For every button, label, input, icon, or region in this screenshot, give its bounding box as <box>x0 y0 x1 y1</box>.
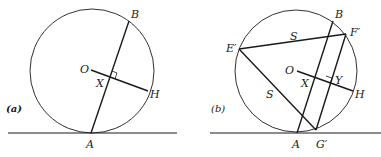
circle-b <box>235 10 357 132</box>
geometry-diagram: B O X H A (a) B F′ E′ S S O X Y H A G′ (… <box>0 0 381 157</box>
figure-a <box>8 9 177 133</box>
label-a-b: A <box>291 138 300 151</box>
label-x-b: X <box>300 77 310 90</box>
label-s-left: S <box>266 88 274 101</box>
label-a-a: A <box>85 138 94 151</box>
label-b-a: B <box>130 8 139 21</box>
figure-a-labels: B O X H A (a) <box>6 8 160 151</box>
label-e-prime: E′ <box>225 42 237 55</box>
label-b-b: B <box>334 8 343 21</box>
label-x-a: X <box>95 77 105 90</box>
label-g-prime: G′ <box>316 138 328 151</box>
label-f-prime: F′ <box>349 26 361 39</box>
figure-b-labels: B F′ E′ S S O X Y H A G′ (b) <box>211 8 365 151</box>
label-h-a: H <box>149 88 160 101</box>
label-o-a: O <box>80 63 89 76</box>
label-y-b: Y <box>335 74 344 87</box>
label-s-top: S <box>290 30 298 43</box>
caption-a: (a) <box>6 103 22 114</box>
label-h-b: H <box>354 88 365 101</box>
caption-b: (b) <box>211 103 225 114</box>
label-o-b: O <box>285 64 294 77</box>
